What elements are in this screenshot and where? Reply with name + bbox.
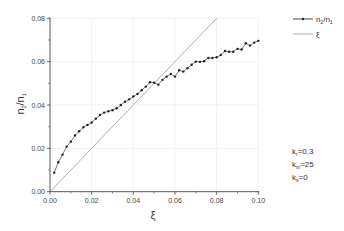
parameter-annotations: kr=0.3 km=25 ks=0 xyxy=(292,147,314,183)
data-point xyxy=(182,70,184,72)
data-point xyxy=(203,60,205,62)
legend-item-xi: ξ xyxy=(293,30,320,39)
y-tick-label: 0.08 xyxy=(31,15,45,22)
data-point xyxy=(145,85,147,87)
data-point xyxy=(245,42,247,44)
param-kr: kr=0.3 xyxy=(292,147,314,157)
data-point xyxy=(128,98,130,100)
grid-lines xyxy=(50,18,258,191)
y-axis-ticks: 0.000.020.040.060.08 xyxy=(31,15,50,195)
data-point xyxy=(224,50,226,52)
data-point xyxy=(140,89,142,91)
data-point xyxy=(178,69,180,71)
data-point xyxy=(236,48,238,50)
data-point xyxy=(165,75,167,77)
data-point xyxy=(211,57,213,59)
param-km: km=25 xyxy=(292,160,314,170)
data-point xyxy=(174,75,176,77)
data-point xyxy=(195,60,197,62)
x-tick-label: 0.04 xyxy=(127,197,141,204)
data-point xyxy=(74,134,76,136)
line-chart: 0.000.020.040.060.080.10 0.000.020.040.0… xyxy=(0,0,344,231)
y-tick-label: 0.00 xyxy=(31,188,45,195)
x-tick-label: 0.06 xyxy=(168,197,182,204)
data-point xyxy=(124,101,126,103)
data-point xyxy=(228,50,230,52)
legend-item-n2-n1: n2/n1 xyxy=(293,15,333,25)
data-point xyxy=(86,124,88,126)
svg-text:ξ: ξ xyxy=(316,30,320,39)
data-point xyxy=(107,110,109,112)
data-point xyxy=(65,145,67,147)
y-tick-label: 0.06 xyxy=(31,58,45,65)
data-point xyxy=(161,79,163,81)
data-point xyxy=(232,50,234,52)
data-point xyxy=(207,57,209,59)
data-point xyxy=(257,40,259,42)
data-point xyxy=(90,121,92,123)
data-point xyxy=(132,95,134,97)
data-point xyxy=(70,140,72,142)
data-point xyxy=(136,93,138,95)
data-point xyxy=(157,83,159,85)
data-point xyxy=(240,48,242,50)
data-point xyxy=(61,153,63,155)
data-point xyxy=(115,107,117,109)
data-point xyxy=(149,81,151,83)
data-point xyxy=(249,44,251,46)
data-point xyxy=(215,56,217,58)
data-point xyxy=(186,67,188,69)
data-point xyxy=(153,81,155,83)
param-ks: ks=0 xyxy=(292,173,308,183)
data-point xyxy=(57,161,59,163)
svg-text:n2/n1: n2/n1 xyxy=(316,15,333,25)
legend: n2/n1 ξ xyxy=(293,15,333,39)
x-tick-label: 0.10 xyxy=(251,197,265,204)
data-point xyxy=(99,114,101,116)
x-tick-label: 0.08 xyxy=(210,197,224,204)
data-point xyxy=(120,104,122,106)
data-point xyxy=(199,61,201,63)
series-n2-n1-line xyxy=(53,40,260,174)
data-point xyxy=(111,109,113,111)
data-point xyxy=(78,130,80,132)
x-axis-label: ξ xyxy=(151,209,156,221)
data-point xyxy=(103,111,105,113)
data-point xyxy=(170,73,172,75)
y-tick-label: 0.02 xyxy=(31,145,45,152)
axes xyxy=(50,17,259,191)
x-axis-ticks: 0.000.020.040.060.080.10 xyxy=(43,192,265,204)
data-point xyxy=(253,41,255,43)
x-tick-label: 0.02 xyxy=(85,197,99,204)
data-point xyxy=(53,171,55,173)
data-point xyxy=(220,54,222,56)
data-point xyxy=(82,126,84,128)
data-point xyxy=(95,117,97,119)
data-point xyxy=(190,63,192,65)
y-axis-label: n2/n1 xyxy=(14,93,27,114)
x-tick-label: 0.00 xyxy=(43,197,57,204)
y-tick-label: 0.04 xyxy=(31,102,45,109)
